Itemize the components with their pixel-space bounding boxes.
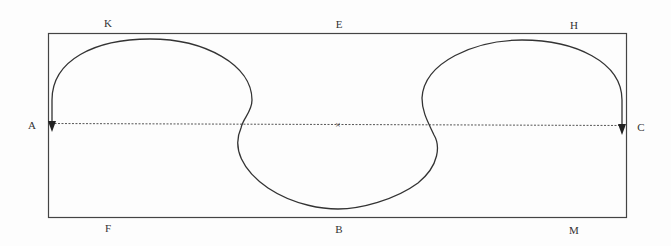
- arrowhead-right-icon: [618, 124, 626, 135]
- diagram-svg: ×: [0, 0, 671, 246]
- label-k: K: [104, 18, 112, 29]
- label-h: H: [570, 20, 578, 31]
- label-e: E: [336, 19, 343, 30]
- label-a: A: [28, 120, 36, 131]
- arrowhead-left-icon: [48, 121, 56, 132]
- label-m: M: [569, 225, 579, 236]
- center-mark-icon: ×: [335, 121, 341, 129]
- diagram-canvas: × K E H A C F B M: [0, 0, 671, 246]
- label-f: F: [105, 223, 111, 234]
- label-b: B: [335, 224, 342, 235]
- label-c: C: [637, 122, 644, 133]
